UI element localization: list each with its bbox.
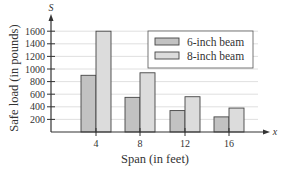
y-tick-label: 400: [30, 101, 45, 112]
x-variable-label: x: [272, 126, 278, 137]
bar-8-inch-span-12: [185, 97, 200, 132]
y-tick-label: 200: [30, 114, 45, 125]
y-axis-title: Safe load (in pounds): [7, 24, 21, 131]
bar-chart: S x 2004006008001000120014001600 481216 …: [0, 0, 285, 175]
x-tick-label: 8: [138, 138, 143, 149]
bar-8-inch-span-8: [140, 73, 155, 132]
bar-6-inch-span-12: [170, 111, 185, 132]
y-tick-label: 1200: [25, 51, 45, 62]
y-tick-label: 800: [30, 76, 45, 87]
legend-label: 8-inch beam: [187, 50, 244, 62]
x-axis-arrow-icon: [263, 130, 270, 135]
y-axis-arrow-icon: [49, 14, 54, 21]
x-tick-label: 12: [180, 138, 190, 149]
bar-6-inch-span-4: [81, 75, 96, 132]
legend-swatch: [155, 38, 179, 45]
x-axis-title: Span (in feet): [121, 152, 189, 166]
x-tick-label: 4: [94, 138, 99, 149]
bar-6-inch-span-8: [125, 97, 140, 132]
legend-label: 6-inch beam: [187, 36, 244, 48]
y-variable-label: S: [49, 2, 54, 13]
x-tick-label: 16: [224, 138, 234, 149]
legend-swatch: [155, 52, 179, 59]
y-tick-label: 1600: [25, 26, 45, 37]
bar-8-inch-span-16: [229, 108, 244, 132]
y-tick-label: 600: [30, 89, 45, 100]
bar-8-inch-span-4: [96, 31, 111, 132]
legend: 6-inch beam8-inch beam: [148, 31, 253, 68]
y-tick-label: 1400: [25, 38, 45, 49]
x-ticks: 481216: [94, 128, 235, 149]
bar-6-inch-span-16: [214, 117, 229, 132]
y-tick-label: 1000: [25, 64, 45, 75]
